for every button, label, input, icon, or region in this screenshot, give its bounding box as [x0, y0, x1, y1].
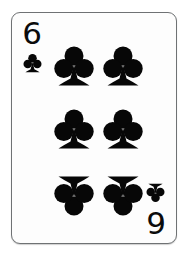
club-icon — [103, 108, 143, 150]
club-icon — [103, 45, 143, 87]
index-top-left: 6 — [15, 18, 49, 73]
club-icon — [23, 53, 42, 73]
club-icon — [103, 175, 143, 217]
index-top-left-rank: 6 — [15, 18, 49, 51]
card-scene: 6 6 — [0, 0, 189, 258]
index-bottom-right-rank: 6 — [139, 205, 173, 238]
club-icon — [54, 175, 94, 217]
playing-card-six-of-clubs[interactable]: 6 6 — [11, 12, 177, 244]
index-bottom-right: 6 — [139, 183, 173, 238]
club-icon — [147, 183, 166, 203]
club-icon — [54, 45, 94, 87]
club-icon — [54, 108, 94, 150]
